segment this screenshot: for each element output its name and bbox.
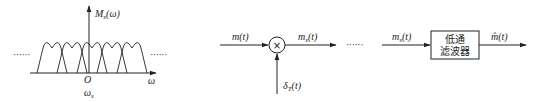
origin-label: O [84,74,91,85]
filter-label-line2: 滤波器 [440,45,470,57]
spectrum-ellipsis-right: ······ [150,49,167,60]
omega-label: ω [148,75,155,86]
sampler-block: m(t) × ms(t) δT(t) ······ [220,31,363,94]
spectrum-ellipsis-left: ······ [13,49,30,60]
recovered-signal-label: m̂(t) [491,31,508,43]
multiply-icon: × [273,40,281,51]
impulse-train-label: δT(t) [283,80,302,93]
sampling-diagram: ······ ······ Ms(ω) O ω ωs m(t) × ms(t) … [0,0,534,102]
magnitude-label: Ms(ω) [94,8,120,21]
sampler-ellipsis: ······ [346,39,363,50]
input-signal-label: m(t) [232,31,249,43]
spectrum-plot: ······ ······ Ms(ω) O ω ωs [13,6,167,100]
spectrum-lobes [37,43,147,73]
sampling-frequency-label: ωs [84,87,94,100]
filter-label-line1: 低通 [445,33,465,45]
sampled-signal-label: ms(t) [298,31,318,44]
filter-input-label: ms(t) [392,31,412,44]
recovery-block: ms(t) 低通 滤波器 m̂(t) [382,31,526,59]
